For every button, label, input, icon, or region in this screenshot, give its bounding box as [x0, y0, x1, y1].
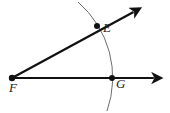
geometry-figure: F E G: [0, 0, 170, 113]
point-label-e: E: [103, 21, 111, 34]
point-dot-g: [109, 75, 115, 81]
compass-arc: [78, 2, 113, 111]
vertex-label-f: F: [9, 81, 17, 94]
point-dot-e: [94, 23, 100, 29]
geometry-canvas: [0, 0, 170, 113]
ray-fe: [12, 12, 134, 78]
point-label-g: G: [116, 77, 125, 90]
